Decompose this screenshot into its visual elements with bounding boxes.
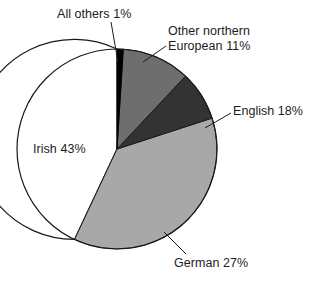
slice-label-other-northern-european-line2: European 11% (168, 39, 250, 53)
slice-label-english: English 18% (233, 104, 303, 119)
slice-label-all-others: All others 1% (57, 7, 131, 22)
leader-line-german (164, 232, 186, 254)
pie-chart-graphic (0, 0, 319, 282)
slice-label-irish: Irish 43% (33, 142, 86, 157)
pie-chart: All others 1% Other northernEuropean 11%… (0, 0, 319, 282)
slice-label-german: German 27% (174, 256, 248, 271)
slice-label-other-northern-european: Other northernEuropean 11% (168, 24, 250, 53)
slice-label-other-northern-european-line1: Other northern (168, 24, 250, 38)
